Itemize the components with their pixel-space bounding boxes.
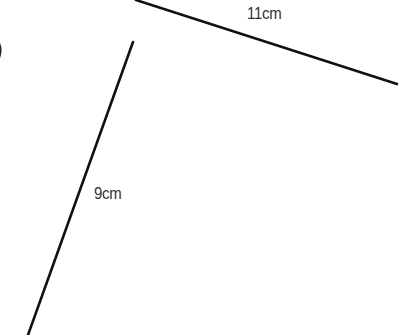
label-left-length: 9cm bbox=[94, 184, 121, 204]
label-top-length: 11cm bbox=[247, 4, 281, 24]
diagram-lines bbox=[0, 0, 402, 335]
diagram-canvas: 11cm 9cm bbox=[0, 0, 402, 335]
